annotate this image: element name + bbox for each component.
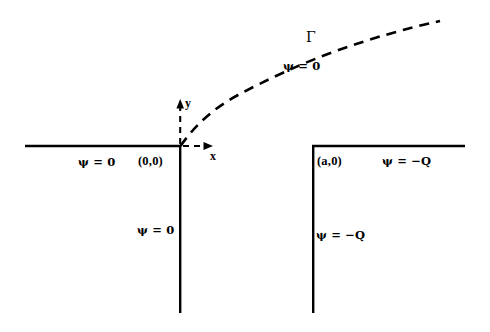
left-plate-condition-label: ψ = 0 <box>78 157 115 169</box>
right-plate-condition-label: ψ = −Q <box>382 156 431 168</box>
gamma-condition-label: ψ = 0 <box>283 61 320 73</box>
y-axis-label: y <box>185 97 191 109</box>
y-axis-arrowhead <box>176 99 184 109</box>
x-axis-label: x <box>210 150 216 162</box>
left-wall-condition-label: ψ = 0 <box>137 225 174 237</box>
gamma-curve-label: Γ <box>306 30 316 44</box>
right-point-label: (a,0) <box>317 155 342 168</box>
origin-point-label: (0,0) <box>138 155 163 168</box>
figure-container: ψ = 0 (0,0) ψ = 0 y x Γ ψ = 0 (a,0) ψ = … <box>0 0 490 332</box>
right-wall-condition-label: ψ = −Q <box>316 230 365 242</box>
